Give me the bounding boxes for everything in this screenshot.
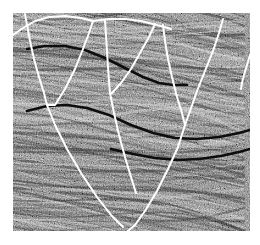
- seismic-image-panel: [13, 13, 250, 231]
- seismic-canvas: [13, 13, 250, 231]
- seismic-figure: [0, 0, 260, 245]
